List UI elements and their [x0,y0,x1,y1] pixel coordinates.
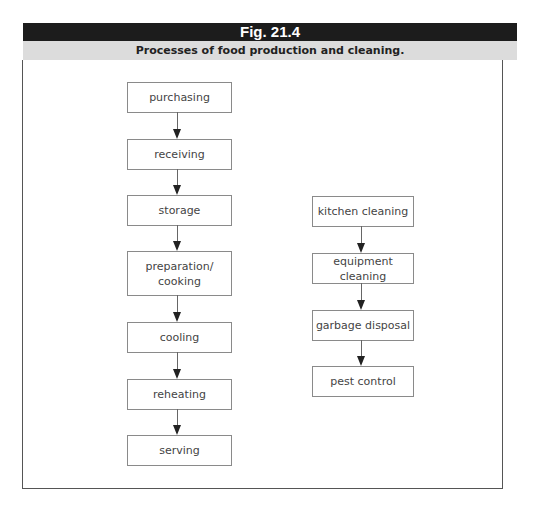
step-label: receiving [154,147,204,162]
step-label: cooling [160,330,200,345]
figure-caption: Processes of food production and cleanin… [23,41,517,60]
step-serving: serving [127,435,232,466]
step-label: reheating [153,387,206,402]
arrow-down-icon [172,169,184,195]
step-label: pest control [330,374,395,389]
step-label: serving [159,443,200,458]
step-label: kitchen cleaning [318,204,409,219]
arrow-down-icon [172,352,184,379]
arrow-down-icon [356,226,368,253]
arrow-down-icon [356,283,368,310]
arrow-down-icon [172,409,184,435]
arrow-down-icon [356,340,368,366]
step-cooling: cooling [127,322,232,353]
step-label: purchasing [149,90,210,105]
figure-label: Fig. 21.4 [23,23,517,41]
step-preparation-cooking: preparation/ cooking [127,251,232,296]
step-receiving: receiving [127,139,232,170]
arrow-down-icon [172,112,184,139]
step-storage: storage [127,195,232,226]
step-pest-control: pest control [312,366,414,397]
arrow-down-icon [172,225,184,251]
step-purchasing: purchasing [127,82,232,113]
step-label: preparation/ cooking [146,259,214,289]
step-label: equipment cleaning [313,254,413,284]
step-label: storage [159,203,201,218]
step-garbage-disposal: garbage disposal [312,310,414,341]
step-equipment-cleaning: equipment cleaning [312,253,414,284]
step-label: garbage disposal [316,318,410,333]
diagram-frame [22,60,503,489]
arrow-down-icon [172,295,184,322]
step-kitchen-cleaning: kitchen cleaning [312,196,414,227]
step-reheating: reheating [127,379,232,410]
